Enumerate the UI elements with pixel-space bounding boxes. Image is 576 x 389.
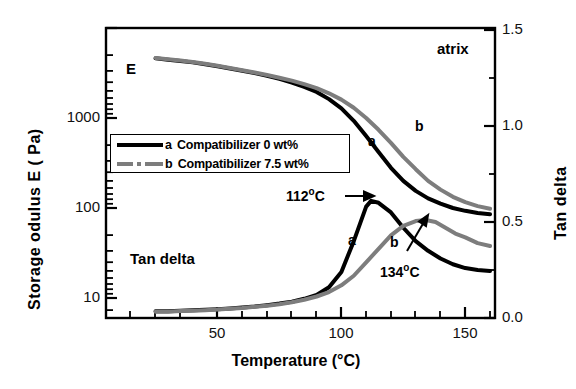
legend-key-dashdot-line [117,158,163,170]
right-axis-ticks [484,30,495,318]
ytick-left-100: 100 [38,198,100,215]
y-axis-left-title: Storage odulus E ( Pa) [26,128,44,310]
plot-frame [106,28,495,318]
legend-label-b: Compatibilizer 7.5 wt% [178,157,309,171]
annotation-112c-suffix: C [315,188,325,204]
legend: a Compatibilizer 0 wt% b Compatibilizer … [110,134,350,173]
annotation-arrow-112 [345,192,374,201]
xtick-100: 100 [321,324,361,341]
corner-label-matrix: atrix [437,40,469,57]
y-axis-right-title: Tan delta [552,166,570,240]
inplot-label-tandelta: Tan delta [130,250,195,267]
xtick-50: 50 [197,324,237,341]
curve-label-tandelta-a: a [348,232,356,248]
legend-entry-b: b Compatibilizer 7.5 wt% [111,154,349,173]
legend-label-a: Compatibilizer 0 wt% [177,138,298,152]
legend-tag-a: a [165,138,172,152]
annotation-134c: 134oC [380,262,420,280]
ytick-right-0-5: 0.5 [502,212,523,229]
curve-tandelta-b [156,220,490,312]
ytick-left-1000: 1000 [38,108,100,125]
inplot-label-modulus: E [126,60,136,77]
annotation-134c-suffix: C [409,264,419,280]
legend-tag-b: b [165,157,173,171]
curve-label-tandelta-b: b [390,234,399,250]
annotation-134c-value: 134 [380,264,403,280]
annotation-112c-value: 112 [286,188,309,204]
curve-label-modulus-a: a [368,133,376,149]
ytick-right-0-0: 0.0 [502,308,523,325]
figure: 1000 100 10 1.5 1.0 0.5 0.0 50 100 150 S… [0,0,576,389]
xtick-150: 150 [445,324,485,341]
ytick-left-10: 10 [38,288,100,305]
annotation-112c: 112oC [286,186,325,204]
legend-key-solid-line [117,139,163,151]
legend-entry-a: a Compatibilizer 0 wt% [111,135,349,154]
ytick-right-1-0: 1.0 [502,116,523,133]
ytick-right-1-5: 1.5 [502,20,523,37]
x-axis-title: Temperature (°C) [196,352,396,370]
data-curves [156,58,490,312]
curve-label-modulus-b: b [415,118,424,134]
